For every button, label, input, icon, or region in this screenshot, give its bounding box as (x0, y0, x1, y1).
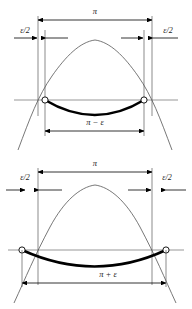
lower-bound-arc (22, 250, 166, 267)
epsilon-right-label: ε/2 (163, 26, 172, 35)
lower-diagram-canvas: π ε/2 ε/2 π + ε (0, 155, 192, 309)
right-intersection-point (141, 97, 147, 103)
epsilon-left-label: ε/2 (20, 173, 29, 182)
upper-diagram: π ε/2 ε/2 π − ε (0, 0, 192, 155)
pi-label: π (93, 6, 98, 16)
parabola-curve (18, 40, 172, 150)
lower-bound-arc (45, 100, 144, 115)
epsilon-right-label: ε/2 (162, 173, 171, 182)
pi-label: π (93, 158, 98, 168)
pi-plus-epsilon-label: π + ε (99, 269, 117, 279)
left-intersection-point (42, 97, 48, 103)
pi-minus-epsilon-label: π − ε (86, 117, 104, 127)
upper-diagram-canvas: π ε/2 ε/2 π − ε (0, 0, 192, 155)
epsilon-left-label: ε/2 (20, 26, 29, 35)
lower-diagram: π ε/2 ε/2 π + ε (0, 155, 192, 309)
figure-container: π ε/2 ε/2 π − ε (0, 0, 192, 309)
